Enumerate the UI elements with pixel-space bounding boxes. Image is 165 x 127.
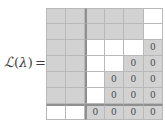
matrix-cell-r2-c5 (124, 24, 144, 40)
matrix-cell-r4-c1 (46, 56, 66, 72)
matrix-cell-r2-c3 (85, 24, 105, 40)
matrix-cell-r5-c5: 0 (124, 72, 144, 88)
matrix-cell-r1-c2 (66, 8, 86, 24)
matrix-cell-r7-c5: 0 (124, 104, 144, 120)
matrix-grid: 0000000000000 (46, 8, 163, 120)
matrix-cell-r1-c4 (105, 8, 125, 24)
matrix-cell-r1-c6 (144, 8, 164, 24)
matrix-cell-r7-c2 (66, 104, 86, 120)
matrix-cell-r1-c1 (46, 8, 66, 24)
equals-sign: = (35, 55, 46, 70)
matrix-cell-r7-c6: 0 (144, 104, 164, 120)
equation-label: ℒ(λ)= (2, 54, 46, 70)
matrix-cell-r2-c4 (105, 24, 125, 40)
matrix-cell-r1-c3 (85, 8, 105, 24)
matrix-cell-r5-c3 (85, 72, 105, 88)
close-paren: ) (28, 55, 33, 70)
matrix-cell-r5-c2 (66, 72, 86, 88)
matrix-cell-r6-c6: 0 (144, 88, 164, 104)
matrix-cell-r3-c5 (124, 40, 144, 56)
matrix-cell-r3-c4 (105, 40, 125, 56)
matrix-cell-r7-c3: 0 (85, 104, 105, 120)
matrix-cell-r6-c3 (85, 88, 105, 104)
matrix-cell-r6-c1 (46, 88, 66, 104)
matrix-cell-r3-c2 (66, 40, 86, 56)
matrix-cell-r1-c5 (124, 8, 144, 24)
matrix-cell-r4-c4 (105, 56, 125, 72)
matrix-cell-r7-c4: 0 (105, 104, 125, 120)
matrix-cell-r6-c2 (66, 88, 86, 104)
matrix-cell-r4-c5: 0 (124, 56, 144, 72)
matrix-cell-r2-c6 (144, 24, 164, 40)
matrix-cell-r6-c4: 0 (105, 88, 125, 104)
matrix-cell-r3-c6: 0 (144, 40, 164, 56)
figure-root: ℒ(λ)= 0000000000000 (0, 0, 165, 127)
matrix-cell-r3-c3 (85, 40, 105, 56)
matrix-cell-r5-c4: 0 (105, 72, 125, 88)
matrix-cell-r5-c1 (46, 72, 66, 88)
matrix-cell-r3-c1 (46, 40, 66, 56)
matrix-cell-r2-c1 (46, 24, 66, 40)
matrix-cell-r5-c6: 0 (144, 72, 164, 88)
matrix-cell-r4-c2 (66, 56, 86, 72)
matrix-cell-r6-c5: 0 (124, 88, 144, 104)
matrix-cell-r2-c2 (66, 24, 86, 40)
script-l-symbol: ℒ (4, 54, 14, 70)
matrix-cell-r4-c3 (85, 56, 105, 72)
matrix-cell-r7-c1 (46, 104, 66, 120)
lambda-symbol: λ (19, 55, 27, 70)
matrix-cell-r4-c6: 0 (144, 56, 164, 72)
